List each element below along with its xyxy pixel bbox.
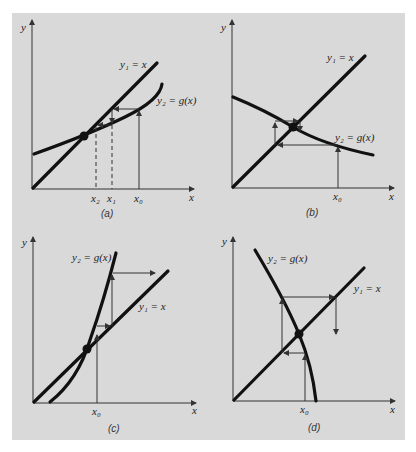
x-axis-label: x [388,190,394,202]
tick-x1: x₁ [106,192,116,204]
x-axis-label: x [188,191,194,203]
line-label: y₁ = x [119,58,147,70]
fixed-point [80,132,89,141]
tick-x0: x₀ [299,403,309,415]
y-axis-label: y [220,21,226,33]
x-axis-label: x [191,404,197,416]
fixed-point [295,330,304,339]
x-axis-label: x [389,403,395,415]
y-axis-label: y [20,21,26,33]
panel-caption: (a) [101,208,113,219]
panel-caption: (c) [108,423,120,434]
curve-label: y₂ = g(x) [156,94,197,107]
tick-x2: x₂ [90,192,100,204]
fixed-point-iteration-figure: y x y₁ = x y₂ = g(x) x₂ x₁ x₀ (a) y x [0,0,416,452]
tick-x0: x₀ [91,405,101,417]
fixed-point [83,345,92,354]
y-axis-label: y [21,236,27,248]
tick-x0: x₀ [332,190,342,202]
fixed-point [289,123,298,132]
line-label: y₁ = x [353,282,381,294]
curve-label: y₂ = g(x) [267,252,308,265]
line-label: y₁ = x [326,51,354,63]
y-axis-label: y [221,235,227,247]
curve-label: y₂ = g(x) [334,131,375,144]
panel-caption: (d) [308,422,320,433]
curve-label: y₂ = g(x) [71,251,112,264]
tick-x0: x₀ [133,192,143,204]
line-label: y₁ = x [138,300,166,312]
panel-caption: (b) [306,207,318,218]
